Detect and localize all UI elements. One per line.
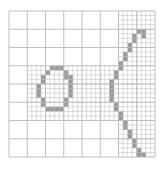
filled-cell	[46, 70, 51, 75]
filled-cell	[68, 75, 73, 80]
filled-cell	[119, 111, 124, 116]
filled-cell	[36, 93, 41, 98]
filled-cell	[46, 107, 51, 112]
filled-cell	[109, 98, 114, 103]
filled-cell	[119, 61, 124, 66]
filled-cell	[64, 98, 69, 103]
filled-cell	[41, 102, 46, 107]
filled-cell	[64, 75, 69, 80]
filled-cell	[36, 89, 41, 94]
filled-cell	[123, 52, 128, 57]
filled-cell	[68, 79, 73, 84]
filled-cell	[141, 34, 146, 39]
filled-cell	[114, 70, 119, 75]
filled-cell	[128, 134, 133, 139]
filled-cell	[41, 75, 46, 80]
filled-cell	[128, 130, 133, 135]
filled-cell	[137, 29, 142, 34]
filled-cell	[137, 152, 142, 157]
filled-cell	[64, 102, 69, 107]
filled-cell	[41, 79, 46, 84]
filled-cell	[55, 107, 60, 112]
filled-cell	[137, 148, 142, 153]
filled-cell	[109, 89, 114, 94]
filled-cell	[119, 116, 124, 121]
filled-cell	[41, 98, 46, 103]
filled-cell	[141, 152, 146, 157]
filled-cell	[50, 66, 55, 71]
filled-cell	[123, 121, 128, 126]
filled-cell	[50, 107, 55, 112]
filled-cell	[114, 107, 119, 112]
filled-cell	[128, 48, 133, 53]
filled-cell	[36, 84, 41, 89]
filled-cell	[68, 89, 73, 94]
filled-cell	[55, 66, 60, 71]
filled-cell	[114, 75, 119, 80]
filled-cell	[64, 70, 69, 75]
filled-cell	[141, 29, 146, 34]
filled-cell	[123, 125, 128, 130]
filled-cell	[114, 102, 119, 107]
filled-cell	[109, 79, 114, 84]
quadtree-grid	[0, 0, 164, 173]
filled-cell	[132, 38, 137, 43]
filled-cell	[109, 93, 114, 98]
filled-cell	[123, 57, 128, 62]
filled-cell	[132, 34, 137, 39]
filled-cell	[68, 84, 73, 89]
quadtree-diagram: Quadtree decomposition of a handwritten …	[0, 0, 164, 173]
filled-cell	[132, 143, 137, 148]
filled-cell	[128, 43, 133, 48]
filled-cell	[68, 93, 73, 98]
filled-cell	[109, 84, 114, 89]
filled-cell	[132, 139, 137, 144]
filled-cell	[59, 66, 64, 71]
filled-cell	[119, 66, 124, 71]
filled-cell	[59, 107, 64, 112]
